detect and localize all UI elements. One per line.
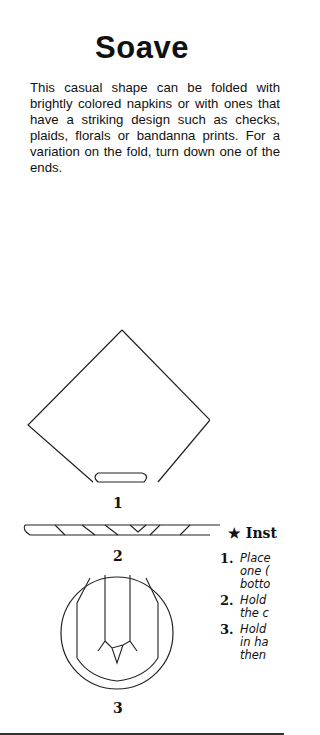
napkin-diamond-diagram-icon <box>20 325 210 485</box>
figure-2-label: 2 <box>113 548 123 564</box>
figure-1-label: 1 <box>113 495 123 511</box>
napkin-on-plate-diagram-icon <box>60 573 175 693</box>
instructions-list: 1. Place one ( botto 2. Hold the c 3. Ho… <box>220 552 320 665</box>
page-title: Soave <box>0 30 284 66</box>
intro-paragraph: This casual shape can be folded with bri… <box>30 80 280 176</box>
step-item: 1. Place one ( botto <box>220 552 320 591</box>
figure-3-label: 3 <box>113 700 123 716</box>
step-item: 2. Hold the c <box>220 594 320 620</box>
step-item: 3. Hold in ha then <box>220 623 320 662</box>
instructions-heading: ★ Inst <box>228 525 277 541</box>
napkin-rolled-diagram-icon <box>20 522 220 547</box>
